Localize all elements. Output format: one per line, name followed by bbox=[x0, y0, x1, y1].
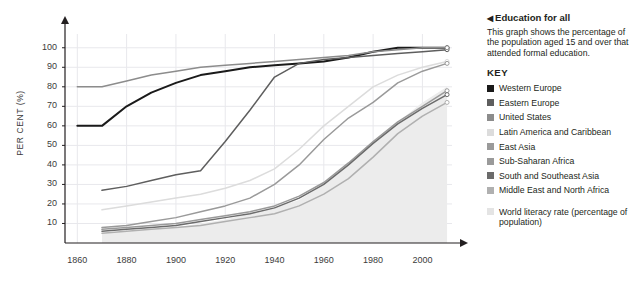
key-item: United States bbox=[487, 112, 631, 122]
legend-panel: ◀Education for all This graph shows the … bbox=[487, 12, 631, 287]
x-axis-tick-label: 1900 bbox=[156, 255, 196, 265]
key-item-label: South and Southeast Asia bbox=[499, 171, 599, 181]
key-item-label: Latin America and Caribbean bbox=[499, 127, 611, 137]
chart-panel: PER CENT (%) 102030405060708090100186018… bbox=[0, 0, 470, 293]
key-item: Sub-Saharan Africa bbox=[487, 156, 631, 166]
left-triangle-icon: ◀ bbox=[487, 14, 493, 23]
key-swatch bbox=[487, 172, 494, 179]
callout-description: This graph shows the percentage of the p… bbox=[487, 27, 631, 58]
x-axis-arrowhead bbox=[460, 239, 468, 247]
key-swatch bbox=[487, 129, 494, 136]
key-swatch bbox=[487, 99, 494, 106]
key-footnote-row: World literacy rate (percentage of popul… bbox=[487, 207, 631, 227]
y-axis-tick-label: 90 bbox=[31, 61, 57, 71]
series-endpoint-marker bbox=[445, 46, 449, 50]
x-axis-tick-label: 1940 bbox=[255, 255, 295, 265]
y-axis-tick-label: 30 bbox=[31, 178, 57, 188]
key-heading: KEY bbox=[487, 67, 631, 78]
world-literacy-label: World literacy rate (percentage of popul… bbox=[499, 207, 631, 227]
x-axis-tick-label: 1960 bbox=[304, 255, 344, 265]
key-item: Middle East and North Africa bbox=[487, 185, 631, 195]
key-item: South and Southeast Asia bbox=[487, 171, 631, 181]
key-list: Western EuropeEastern EuropeUnited State… bbox=[487, 83, 631, 195]
y-axis-tick-label: 80 bbox=[31, 81, 57, 91]
infographic-root: PER CENT (%) 102030405060708090100186018… bbox=[0, 0, 631, 293]
key-item: East Asia bbox=[487, 142, 631, 152]
x-axis-tick-label: 2000 bbox=[402, 255, 442, 265]
key-item-label: East Asia bbox=[499, 142, 535, 152]
key-swatch bbox=[487, 187, 494, 194]
y-axis-tick-label: 70 bbox=[31, 100, 57, 110]
x-axis-tick-label: 1980 bbox=[353, 255, 393, 265]
key-item-label: Eastern Europe bbox=[499, 98, 559, 108]
x-axis-tick-label: 1860 bbox=[57, 255, 97, 265]
callout-title-text: Education for all bbox=[495, 12, 570, 23]
key-item-label: Middle East and North Africa bbox=[499, 185, 609, 195]
key-item-label: United States bbox=[499, 112, 551, 122]
key-item-label: Sub-Saharan Africa bbox=[499, 156, 574, 166]
key-item: Latin America and Caribbean bbox=[487, 127, 631, 137]
callout-title: ◀Education for all bbox=[487, 12, 631, 25]
key-item-label: Western Europe bbox=[499, 83, 562, 93]
y-axis-tick-label: 50 bbox=[31, 139, 57, 149]
x-axis-tick-label: 1880 bbox=[107, 255, 147, 265]
y-axis-tick-label: 10 bbox=[31, 217, 57, 227]
y-axis-tick-label: 60 bbox=[31, 120, 57, 130]
series-endpoint-marker bbox=[445, 100, 449, 104]
line-chart bbox=[0, 0, 470, 293]
series-endpoint-marker bbox=[445, 93, 449, 97]
key-swatch bbox=[487, 85, 494, 92]
key-swatch bbox=[487, 143, 494, 150]
key-item: Eastern Europe bbox=[487, 98, 631, 108]
y-axis-tick-label: 40 bbox=[31, 159, 57, 169]
series-endpoint-marker bbox=[445, 89, 449, 93]
world-literacy-swatch bbox=[487, 208, 494, 215]
y-axis-tick-label: 100 bbox=[31, 42, 57, 52]
y-axis-tick-label: 20 bbox=[31, 198, 57, 208]
series-endpoint-marker bbox=[445, 61, 449, 65]
key-swatch bbox=[487, 158, 494, 165]
y-axis-arrowhead bbox=[61, 16, 69, 24]
key-item: Western Europe bbox=[487, 83, 631, 93]
key-swatch bbox=[487, 114, 494, 121]
x-axis-tick-label: 1920 bbox=[205, 255, 245, 265]
